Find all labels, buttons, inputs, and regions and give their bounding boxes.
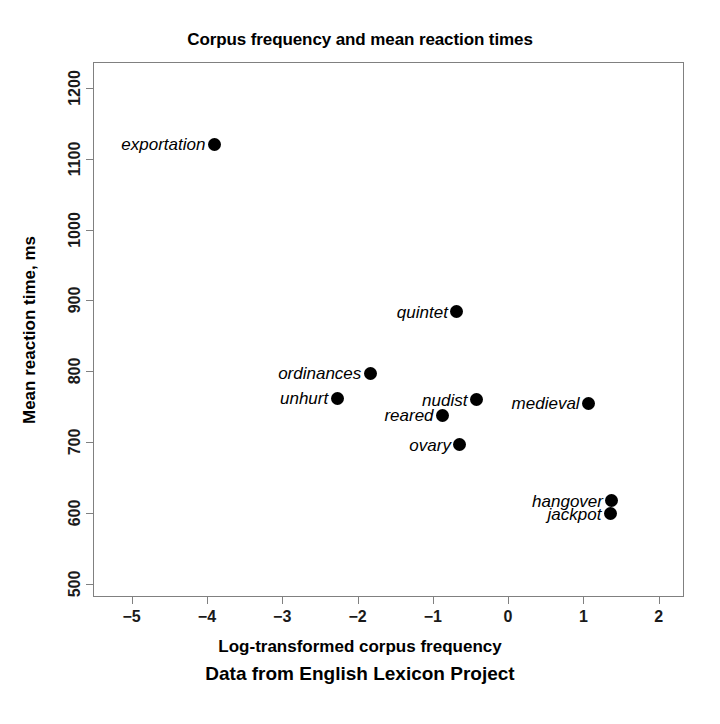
plot-area: 500600700800900100011001200 −5−4−3−2−101… [93,62,684,597]
data-point-label-ordinances: ordinances [278,365,361,382]
y-tick-label-1000: 1000 [67,212,83,248]
data-point-medieval[interactable] [582,397,595,410]
data-point-nudist[interactable] [470,393,483,406]
x-tick-7 [659,596,660,604]
x-tick-0 [132,596,133,604]
y-axis-title: Mean reaction time, ms [18,62,42,597]
x-tick-label-2: −3 [273,609,291,625]
data-point-jackpot[interactable] [604,507,617,520]
y-tick-500 [86,584,94,585]
chart-caption: Data from English Lexicon Project [0,663,720,685]
data-point-label-jackpot: jackpot [548,505,602,522]
data-point-ordinances[interactable] [364,367,377,380]
data-point-quintet[interactable] [450,305,463,318]
x-tick-6 [583,596,584,604]
x-tick-label-4: −1 [424,609,442,625]
y-tick-label-700: 700 [67,429,83,456]
y-tick-800 [86,371,94,372]
x-tick-label-6: 1 [579,609,588,625]
x-tick-1 [207,596,208,604]
y-tick-700 [86,442,94,443]
data-point-label-quintet: quintet [397,303,448,320]
x-tick-4 [433,596,434,604]
y-tick-label-1100: 1100 [67,141,83,176]
data-point-hangover[interactable] [605,494,618,507]
y-tick-600 [86,513,94,514]
data-point-label-reared: reared [384,407,433,424]
scatter-plot-figure: Corpus frequency and mean reaction times… [0,0,720,724]
y-tick-1200 [86,88,94,89]
y-tick-label-500: 500 [67,570,83,597]
data-point-label-exportation: exportation [121,136,205,153]
data-point-label-ovary: ovary [409,436,451,453]
x-tick-label-0: −5 [123,609,141,625]
data-point-ovary[interactable] [453,438,466,451]
x-tick-label-5: 0 [504,609,513,625]
x-axis-title: Log-transformed corpus frequency [0,637,720,657]
y-tick-label-900: 900 [67,287,83,314]
y-tick-1100 [86,159,94,160]
y-tick-label-800: 800 [67,358,83,385]
data-point-label-medieval: medieval [512,395,580,412]
x-tick-3 [358,596,359,604]
x-tick-label-1: −4 [198,609,216,625]
data-point-label-unhurt: unhurt [280,390,328,407]
y-tick-1000 [86,230,94,231]
y-tick-label-1200: 1200 [67,70,83,106]
chart-title: Corpus frequency and mean reaction times [0,30,720,50]
y-axis-title-text: Mean reaction time, ms [20,235,40,423]
y-tick-900 [86,300,94,301]
x-tick-label-7: 2 [654,609,663,625]
y-tick-label-600: 600 [67,500,83,527]
data-point-reared[interactable] [436,409,449,422]
x-tick-label-3: −2 [348,609,366,625]
x-tick-2 [282,596,283,604]
x-tick-5 [508,596,509,604]
data-point-unhurt[interactable] [331,392,344,405]
data-point-exportation[interactable] [208,138,221,151]
